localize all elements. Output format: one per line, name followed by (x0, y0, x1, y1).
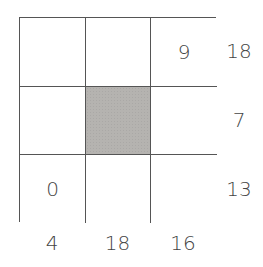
col-sum-1: 18 (85, 231, 150, 255)
grid-cell-r0-c0[interactable] (20, 18, 86, 87)
grid-cell-r0-c2[interactable]: 9 (151, 18, 217, 87)
row-sum-0: 18 (222, 39, 256, 63)
grid-cell-r1-c0[interactable] (20, 87, 86, 155)
grid-cell-r2-c1[interactable] (86, 155, 151, 223)
row-sum-2: 13 (222, 177, 256, 201)
grid-cell-r2-c0[interactable]: 0 (20, 155, 86, 223)
grid-cell-r1-c1-shaded (86, 87, 151, 155)
puzzle-grid: 9 0 (19, 17, 216, 222)
grid-cell-r2-c2[interactable] (151, 155, 217, 223)
row-sum-1: 7 (222, 108, 256, 132)
col-sum-0: 4 (19, 231, 85, 255)
grid-cell-r1-c2[interactable] (151, 87, 217, 155)
grid-cell-r0-c1[interactable] (86, 18, 151, 87)
col-sum-2: 16 (150, 231, 216, 255)
